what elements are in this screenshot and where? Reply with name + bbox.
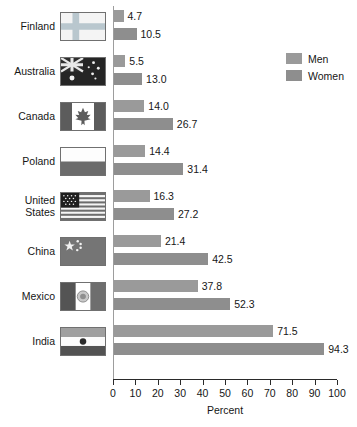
bar-men-canada — [113, 100, 144, 112]
chart-row: UnitedStates16.327.2 — [0, 184, 357, 229]
legend-item-women: Women — [286, 67, 344, 84]
bar-value-women-poland: 31.4 — [187, 163, 207, 175]
bar-women-canada — [113, 118, 173, 130]
bar-men-mexico — [113, 280, 198, 292]
x-tick — [270, 380, 271, 385]
legend-item-men: Men — [286, 50, 344, 67]
bar-men-united-states — [113, 190, 150, 202]
bar-women-mexico — [113, 298, 230, 310]
flag-usa-icon — [60, 192, 106, 221]
bar-value-women-finland: 10.5 — [141, 28, 161, 40]
bar-women-india — [113, 343, 324, 355]
bar-women-poland — [113, 163, 183, 175]
x-tick — [158, 380, 159, 385]
flag-india-icon — [60, 327, 106, 356]
chart-legend: MenWomen — [286, 50, 344, 84]
chart-row: Poland14.431.4 — [0, 139, 357, 184]
category-label-mexico: Mexico — [0, 290, 55, 302]
bar-value-women-united-states: 27.2 — [178, 208, 198, 220]
bar-women-united-states — [113, 208, 174, 220]
legend-swatch-men — [286, 53, 302, 64]
bar-men-finland — [113, 10, 124, 22]
category-label-finland: Finland — [0, 20, 55, 32]
chart-row: Canada14.026.7 — [0, 94, 357, 139]
chart-row: Finland4.710.5 — [0, 4, 357, 49]
y-axis-line — [113, 6, 114, 380]
bar-women-china — [113, 253, 208, 265]
category-label-india: India — [0, 335, 55, 347]
bar-value-men-poland: 14.4 — [149, 145, 169, 157]
bar-value-men-canada: 14.0 — [148, 100, 168, 112]
bar-value-men-china: 21.4 — [165, 235, 185, 247]
chart-row: India71.594.3 — [0, 319, 357, 364]
bar-value-women-australia: 13.0 — [146, 73, 166, 85]
flag-china-icon — [60, 237, 106, 266]
category-label-canada: Canada — [0, 110, 55, 122]
legend-swatch-women — [286, 70, 302, 81]
x-tick — [203, 380, 204, 385]
x-tick — [113, 380, 114, 385]
bar-value-women-mexico: 52.3 — [234, 298, 254, 310]
legend-label-men: Men — [308, 53, 328, 65]
x-tick — [135, 380, 136, 385]
bar-value-men-india: 71.5 — [277, 325, 297, 337]
flag-poland-icon — [60, 147, 106, 176]
category-label-poland: Poland — [0, 155, 55, 167]
x-tick — [315, 380, 316, 385]
category-label-australia: Australia — [0, 65, 55, 77]
bar-women-finland — [113, 28, 137, 40]
bar-value-women-india: 94.3 — [328, 343, 348, 355]
bar-chart: Finland4.710.5Australia5.513.0Canada14.0… — [0, 0, 357, 427]
flag-finland-icon — [60, 12, 106, 41]
flag-canada-icon — [60, 102, 106, 131]
category-label-united-states: UnitedStates — [0, 194, 55, 218]
bar-men-australia — [113, 55, 125, 67]
bar-men-india — [113, 325, 273, 337]
bar-men-china — [113, 235, 161, 247]
bar-value-men-finland: 4.7 — [128, 10, 143, 22]
bar-value-men-united-states: 16.3 — [154, 190, 174, 202]
bar-women-australia — [113, 73, 142, 85]
x-tick — [247, 380, 248, 385]
x-tick — [225, 380, 226, 385]
category-label-china: China — [0, 245, 55, 257]
bar-value-women-canada: 26.7 — [177, 118, 197, 130]
flag-australia-icon — [60, 57, 106, 86]
bar-value-men-australia: 5.5 — [129, 55, 144, 67]
legend-label-women: Women — [308, 70, 344, 82]
bar-men-poland — [113, 145, 145, 157]
x-tick — [337, 380, 338, 385]
flag-mexico-icon — [60, 282, 106, 311]
x-tick — [292, 380, 293, 385]
x-tick — [180, 380, 181, 385]
x-tick-label: 100 — [324, 387, 350, 399]
bar-value-women-china: 42.5 — [212, 253, 232, 265]
chart-row: Mexico37.852.3 — [0, 274, 357, 319]
chart-row: China21.442.5 — [0, 229, 357, 274]
x-axis-title: Percent — [113, 404, 337, 416]
bar-value-men-mexico: 37.8 — [202, 280, 222, 292]
